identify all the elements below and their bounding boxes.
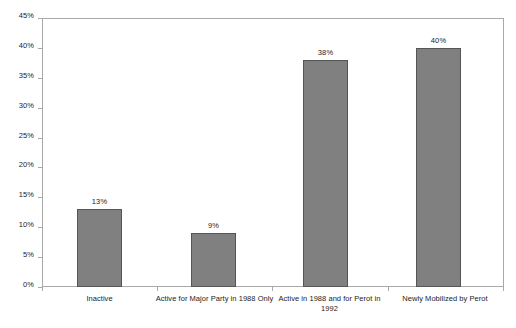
y-tick-mark-35 — [38, 78, 42, 79]
y-tick-mark-5 — [38, 257, 42, 258]
y-tick-mark-45 — [38, 18, 42, 19]
x-category-label-active-1988-and-perot-1992: Active in 1988 and for Perot in 1992 — [270, 294, 389, 313]
x-tick-mark-3 — [388, 287, 389, 291]
bar-value-inactive: 13% — [70, 198, 129, 206]
x-tick-mark-2 — [272, 287, 273, 291]
y-tick-label-30: 30% — [19, 102, 34, 110]
y-tick-label-0: 0% — [23, 281, 34, 289]
bar-value-active-1988-and-perot-1992: 38% — [296, 49, 355, 57]
bar-inactive[interactable] — [77, 209, 122, 287]
bar-value-newly-mobilized-by-perot: 40% — [409, 37, 468, 45]
y-tick-mark-15 — [38, 197, 42, 198]
y-tick-mark-30 — [38, 108, 42, 109]
bar-value-active-major-party-1988-only: 9% — [184, 222, 243, 230]
y-tick-label-25: 25% — [19, 132, 34, 140]
y-tick-label-45: 45% — [19, 12, 34, 20]
y-tick-mark-25 — [38, 138, 42, 139]
y-tick-label-20: 20% — [19, 161, 34, 169]
x-category-label-newly-mobilized-by-perot: Newly Mobilized by Perot — [386, 294, 504, 304]
y-tick-label-15: 15% — [19, 191, 34, 199]
bar-active-major-party-1988-only[interactable] — [191, 233, 236, 287]
x-tick-mark-0 — [42, 287, 43, 291]
x-category-label-inactive: Inactive — [42, 294, 157, 304]
y-axis: 45% 40% 35% 30% 25% 20% 15% 10% — [0, 0, 42, 328]
x-tick-mark-1 — [157, 287, 158, 291]
y-tick-mark-10 — [38, 227, 42, 228]
bar-newly-mobilized-by-perot[interactable] — [416, 48, 461, 287]
y-tick-label-40: 40% — [19, 42, 34, 50]
bar-chart: 45% 40% 35% 30% 25% 20% 15% 10% — [0, 0, 516, 328]
bar-active-1988-and-perot-1992[interactable] — [303, 60, 348, 287]
y-tick-label-5: 5% — [23, 251, 34, 259]
y-tick-mark-20 — [38, 167, 42, 168]
y-tick-label-10: 10% — [19, 221, 34, 229]
x-tick-mark-4 — [503, 287, 504, 291]
y-tick-label-35: 35% — [19, 72, 34, 80]
x-category-label-active-major-party-1988-only: Active for Major Party in 1988 Only — [155, 294, 274, 304]
y-tick-mark-40 — [38, 48, 42, 49]
